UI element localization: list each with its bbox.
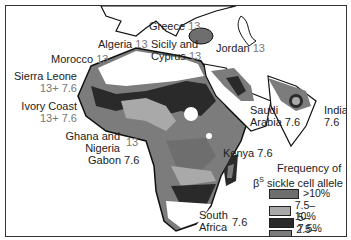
label-algeria: Algeria 13 [98,38,148,50]
label-south-africa: SouthAfrica [199,209,228,233]
label-india: India7.6 [324,104,347,128]
legend-title-line1: Frequency of [269,162,341,174]
label-ghana-nigeria: Ghana andNigeria [64,130,120,154]
label-sierra-leone: Sierra Leone13+ 7.6 [10,70,77,94]
label-gabon: Gabon 7.6 [88,154,139,166]
legend-item: >10% [269,188,330,199]
label-saudi-arabia: SaudiArabia 7.6 [250,104,300,128]
label-sicily-cyprus: Sicily andCyprus 13 [151,38,201,62]
label-jordan: Jordan 13 [216,42,265,54]
label-south-africa-value: 7.6 [232,216,247,228]
label-morocco: Morocco 13 [51,53,109,65]
map-frame: Greece 13 Algeria 13 Sicily andCyprus 13… [5,5,347,237]
legend-item: 0–2.5% [269,236,327,237]
legend-swatch [269,189,299,199]
label-ivory-coast: Ivory Coast13+ 7.6 [10,100,77,124]
label-greece: Greece 13 [149,20,200,32]
label-kenya: Kenya 7.6 [223,147,273,159]
label-ghana-nigeria-value: 13 [126,136,138,148]
